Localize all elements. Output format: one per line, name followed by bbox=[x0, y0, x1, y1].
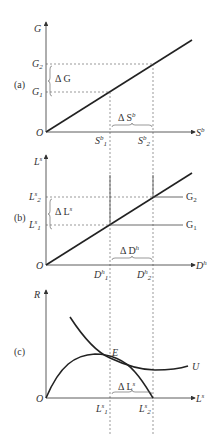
sup: h bbox=[203, 259, 207, 267]
sub: 1 bbox=[104, 140, 108, 148]
g1-label: G1 bbox=[186, 219, 197, 232]
origin-label: O bbox=[36, 260, 43, 271]
y-axis-label: R bbox=[33, 289, 40, 300]
g2-label: G2 bbox=[186, 191, 197, 204]
delta-s-label: Δ S bbox=[118, 112, 132, 123]
sub: 2 bbox=[147, 140, 151, 148]
svg-text:Sb: Sb bbox=[196, 126, 205, 138]
svg-text:Ls1: Ls1 bbox=[95, 402, 108, 416]
svg-text:Dh2: Dh2 bbox=[136, 268, 152, 282]
sub: 1 bbox=[37, 224, 41, 232]
svg-text:Sb1: Sb1 bbox=[95, 134, 107, 148]
brace-icon bbox=[48, 199, 52, 229]
svg-text:Ls1: Ls1 bbox=[28, 218, 41, 232]
svg-text:Dh: Dh bbox=[195, 259, 207, 271]
sup: s bbox=[40, 155, 43, 163]
tick-sub: 1 bbox=[39, 91, 43, 99]
sub: 1 bbox=[104, 408, 108, 416]
sub: 2 bbox=[147, 408, 151, 416]
sup: s bbox=[70, 205, 73, 213]
svg-text:Δ Dh: Δ Dh bbox=[120, 244, 140, 256]
sub: 2 bbox=[148, 274, 152, 282]
origin-label: O bbox=[36, 127, 43, 138]
delta-d-label: Δ D bbox=[120, 245, 136, 256]
origin-label: O bbox=[36, 393, 43, 404]
svg-text:Δ Sb: Δ Sb bbox=[118, 111, 136, 123]
brace-icon bbox=[112, 123, 152, 127]
delta-g-label: Δ G bbox=[55, 73, 71, 84]
economics-diagram: G O (a) G2 G1 Δ G Δ Sb Sb Sb1 Sb2 Ls O (… bbox=[0, 0, 220, 435]
tick-sub: 2 bbox=[39, 63, 43, 71]
sub: 1 bbox=[105, 274, 109, 282]
svg-text:Ls: Ls bbox=[195, 392, 205, 404]
tick-label: G bbox=[32, 58, 39, 69]
curve-u-label: U bbox=[192, 361, 200, 372]
svg-text:Ls2: Ls2 bbox=[138, 402, 151, 416]
svg-text:Sb2: Sb2 bbox=[138, 134, 151, 148]
svg-text:Dh1: Dh1 bbox=[93, 268, 108, 282]
sup: s bbox=[202, 392, 205, 400]
y-axis-label: G bbox=[34, 23, 41, 34]
svg-text:G1: G1 bbox=[32, 86, 43, 99]
delta-l-label: Δ L bbox=[118, 381, 133, 392]
svg-text:Ls2: Ls2 bbox=[28, 190, 41, 204]
sup: b bbox=[132, 111, 136, 119]
delta-l-label: Δ L bbox=[55, 206, 70, 217]
svg-text:Ls: Ls bbox=[33, 155, 43, 167]
panel-c: R O (c) E U Δ Ls Ls Ls1 Ls2 bbox=[14, 289, 205, 416]
panel-b: Ls O (b) Ls2 Ls1 Δ Ls Δ Dh G2 G1 Dh Dh1 … bbox=[14, 155, 207, 282]
sup: b bbox=[201, 126, 205, 134]
svg-text:G2: G2 bbox=[32, 58, 43, 71]
brace-icon bbox=[112, 256, 152, 260]
svg-text:Δ Ls: Δ Ls bbox=[55, 205, 73, 217]
demand-line bbox=[46, 173, 192, 265]
point-e-label: E bbox=[111, 347, 118, 358]
tick-label: G bbox=[32, 86, 39, 97]
sup: s bbox=[133, 380, 136, 388]
svg-text:Δ Ls: Δ Ls bbox=[118, 380, 136, 392]
revenue-curve bbox=[46, 354, 153, 398]
panel-a: G O (a) G2 G1 Δ G Δ Sb Sb Sb1 Sb2 bbox=[14, 22, 205, 435]
panel-tag: (a) bbox=[14, 79, 25, 91]
panel-tag: (b) bbox=[14, 212, 26, 224]
brace-icon bbox=[48, 66, 52, 96]
sub: 2 bbox=[37, 196, 41, 204]
sup: h bbox=[136, 244, 140, 252]
utility-curve bbox=[70, 317, 188, 370]
panel-tag: (c) bbox=[14, 346, 25, 358]
